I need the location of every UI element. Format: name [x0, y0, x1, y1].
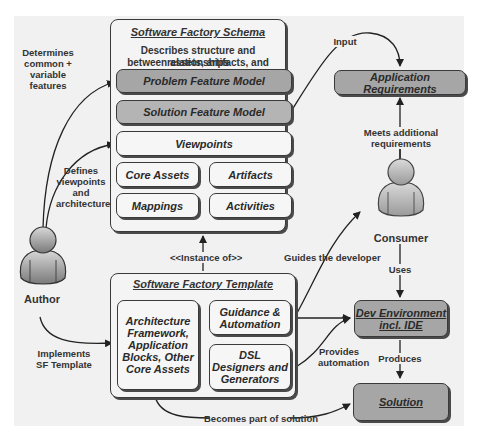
guidance-line-2: Automation [219, 318, 280, 330]
arch-line-1: Architecture [126, 315, 191, 327]
mappings: Mappings [116, 193, 199, 218]
architecture-framework-box: Architecture Framework, Application Bloc… [117, 300, 199, 390]
defines-label: Defines viewpoints and architecture [56, 165, 106, 209]
dev-env-line-2: incl. IDE [379, 319, 422, 331]
activities: Activities [209, 193, 292, 218]
application-requirements: Application Requirements [334, 70, 466, 95]
consumer-label: Consumer [368, 233, 434, 244]
instance-of-label: <<Instance of>> [170, 252, 238, 263]
arch-line-4: Blocks, Other [122, 351, 194, 363]
template-title: Software Factory Template [111, 278, 295, 290]
dev-environment: Dev Environment incl. IDE [354, 300, 448, 337]
guides-label: Guides the developer [284, 252, 366, 263]
dsl-line-1: DSL [239, 349, 261, 361]
becomes-label: Becomes part of solution [204, 413, 298, 424]
determines-label: Determines common + variable features [18, 47, 78, 91]
dev-env-line-1: Dev Environment [356, 307, 446, 319]
schema-title: Software Factory Schema [111, 26, 285, 38]
guidance-automation-box: Guidance & Automation [209, 300, 291, 335]
solution: Solution [353, 383, 449, 421]
dsl-designers-box: DSL Designers and Generators [209, 344, 291, 390]
viewpoints: Viewpoints [116, 131, 292, 156]
meets-label: Meets additional requirements [362, 127, 440, 149]
solution-label: Solution [379, 396, 423, 408]
implements-label: Implements SF Template [36, 348, 92, 370]
solution-feature-model: Solution Feature Model [116, 100, 292, 124]
dsl-line-3: Generators [221, 373, 280, 385]
uses-label: Uses [388, 264, 412, 275]
arch-line-3: Application [128, 339, 188, 351]
provides-label: Provides automation [318, 346, 360, 368]
produces-label: Produces [378, 353, 422, 364]
problem-feature-model: Problem Feature Model [116, 69, 292, 93]
artifacts: Artifacts [209, 162, 292, 187]
author-label: Author [12, 294, 72, 305]
arch-line-2: Framework, [127, 327, 189, 339]
author-person-icon [18, 226, 68, 288]
input-label: Input [330, 36, 360, 47]
core-assets: Core Assets [116, 162, 199, 187]
arch-line-5: Core Assets [126, 363, 190, 375]
dsl-line-2: Designers and [212, 361, 288, 373]
consumer-person-icon [376, 158, 426, 220]
guidance-line-1: Guidance & [219, 306, 280, 318]
